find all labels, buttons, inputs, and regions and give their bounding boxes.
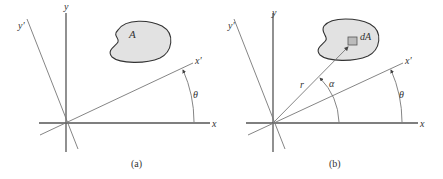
area-shape [110,21,171,62]
y-prime-label: y′ [17,20,25,31]
x-label: x [419,118,425,129]
panel-b: dA r α θ x y x′ y′ (b) [227,7,425,170]
theta-label: θ [399,89,404,100]
x-prime-axis [248,63,403,135]
theta-label: θ [193,89,198,100]
rotated-axes-figure: A x y x′ y′ θ (a) dA r α θ x y x′ y′ (b) [0,0,443,179]
x-prime-axis [40,63,193,135]
y-prime-label: y′ [227,20,235,31]
area-label: A [128,28,136,40]
x-label: x [211,118,217,129]
y-label: y [271,7,277,18]
caption-a: (a) [131,158,142,170]
alpha-label: α [329,78,335,89]
radius-label: r [300,79,304,90]
area-element [348,37,357,45]
panel-a: A x y x′ y′ θ (a) [17,1,217,170]
x-prime-label: x′ [194,55,202,66]
x-prime-label: x′ [404,55,412,66]
y-label: y [63,1,69,12]
caption-b: (b) [329,158,341,170]
element-label: dA [360,31,372,42]
radius-vector [273,47,348,123]
